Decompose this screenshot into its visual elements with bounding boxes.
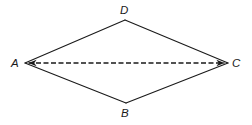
edge-b-a <box>25 63 126 103</box>
vertex-label-b: B <box>121 107 129 119</box>
edge-c-b <box>126 63 228 103</box>
edge-a-d <box>25 20 125 63</box>
edge-d-c <box>125 20 228 63</box>
geometry-figure: A D C B <box>0 0 252 125</box>
vertex-label-a: A <box>11 57 19 69</box>
vertex-label-d: D <box>120 4 128 16</box>
vertex-label-c: C <box>232 57 240 69</box>
